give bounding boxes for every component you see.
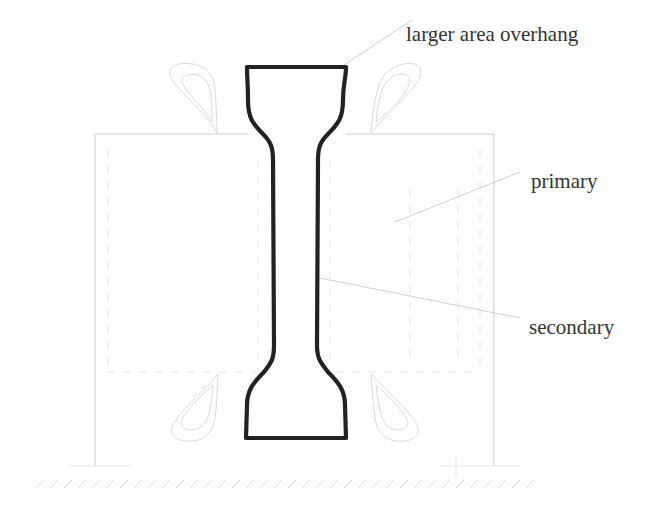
tensile-specimen-diagram: larger area overhang primary secondary [0, 0, 654, 528]
overhang-lobe-top-right [371, 64, 421, 134]
overhang-lobe-bottom-left [172, 374, 218, 441]
leader-secondary [295, 273, 520, 318]
label-larger-area-overhang: larger area overhang [406, 22, 579, 46]
overhang-lobe-bottom-right [371, 374, 418, 441]
label-secondary: secondary [529, 315, 615, 339]
tensile-specimen-outline [246, 67, 346, 438]
label-primary: primary [531, 169, 598, 193]
ground-hatching [36, 480, 534, 488]
ground-base [36, 456, 534, 488]
overhang-lobe-top-left [170, 63, 217, 133]
leader-primary [395, 172, 520, 222]
leader-lines [295, 20, 520, 318]
